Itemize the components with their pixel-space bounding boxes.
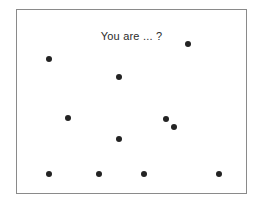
scatter-point	[163, 116, 169, 122]
scatter-point	[116, 74, 122, 80]
scatter-point	[46, 171, 52, 177]
scatter-point	[216, 171, 222, 177]
figure-caption: You are ... ?	[17, 30, 246, 43]
scatter-point	[171, 124, 177, 130]
scatter-point	[116, 136, 122, 142]
scatter-point	[96, 171, 102, 177]
scatter-point	[185, 41, 191, 47]
scatter-point	[46, 56, 52, 62]
scatter-point	[65, 115, 71, 121]
figure-canvas: You are ... ?	[0, 0, 263, 207]
scatter-point	[141, 171, 147, 177]
figure-frame: You are ... ?	[16, 9, 247, 194]
